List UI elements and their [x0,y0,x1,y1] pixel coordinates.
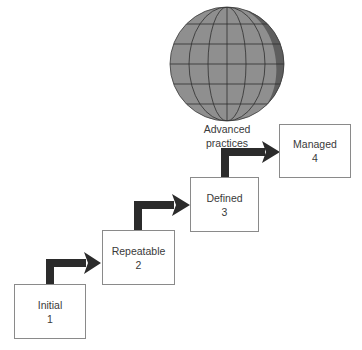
level-number: 2 [136,258,142,272]
level-name: Managed [293,137,337,151]
level-box-repeatable: Repeatable 2 [102,230,175,285]
step-arrow-2 [134,194,190,231]
level-name: Repeatable [112,244,166,258]
level-box-initial: Initial 1 [14,284,86,339]
level-name: Defined [206,191,242,205]
globe-label-line2: practices [193,136,261,150]
level-number: 1 [47,312,53,326]
level-number: 4 [312,151,318,165]
step-arrow-1 [46,252,101,285]
globe-label-line1: Advanced [193,122,261,136]
level-name: Initial [38,298,63,312]
level-box-managed: Managed 4 [279,124,351,178]
globe-label: Advanced practices [193,122,261,150]
level-box-defined: Defined 3 [190,177,259,232]
globe-icon [170,0,293,121]
level-number: 3 [222,205,228,219]
